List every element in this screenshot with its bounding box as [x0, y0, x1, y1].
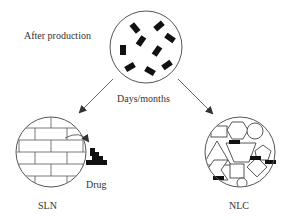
drug-block [250, 156, 261, 160]
matrix-shape [230, 164, 244, 178]
matrix-shape [247, 123, 263, 139]
drug-block [92, 156, 103, 160]
drug-block [90, 152, 99, 156]
days-months-label: Days/months [117, 93, 170, 104]
expelled-drug [86, 148, 107, 165]
dispersed-drug-molecules [120, 20, 176, 76]
drug-block [86, 160, 107, 165]
sln-label: SLN [38, 200, 57, 211]
drug-molecule [152, 45, 163, 57]
nlc-label: NLC [229, 200, 249, 211]
drug-molecule [124, 62, 136, 72]
drug-block [229, 140, 240, 144]
drug-molecule [144, 66, 156, 76]
drug-molecule [120, 45, 126, 55]
nlc-particle [203, 117, 276, 188]
drug-molecule [164, 33, 176, 44]
drug-molecule [161, 60, 173, 71]
drug-label: Drug [86, 179, 107, 190]
drug-block [90, 148, 95, 152]
arrow-to-nlc [178, 79, 212, 113]
drug-molecule [136, 35, 147, 47]
lipid-nanoparticle-diagram: After production Days/months [0, 0, 284, 220]
matrix-shape [227, 122, 248, 139]
drug-molecule [129, 22, 140, 34]
brick-lattice [10, 115, 95, 190]
sln-particle [10, 115, 95, 190]
initial-nanoparticle [110, 11, 182, 83]
drug-molecule [153, 20, 165, 31]
arrow-to-sln [80, 79, 113, 112]
after-production-label: After production [24, 30, 91, 41]
matrix-shape [211, 126, 227, 137]
